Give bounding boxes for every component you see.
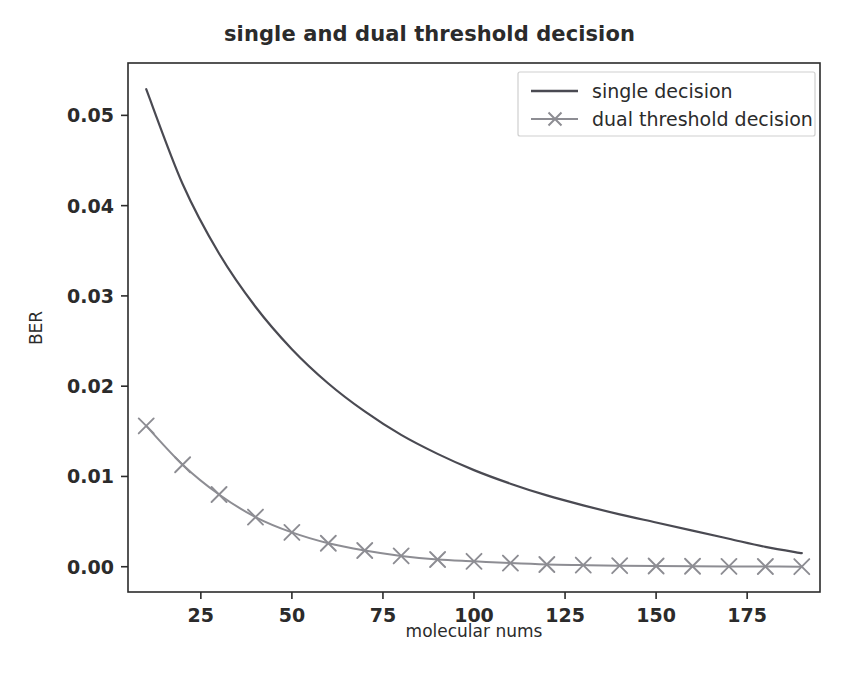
- chart-figure: single and dual threshold decision 25507…: [0, 0, 859, 683]
- y-tick-label: 0.05: [67, 104, 114, 126]
- x-tick-label: 175: [727, 604, 767, 626]
- x-axis-title: molecular nums: [406, 621, 543, 641]
- legend-label-single-decision: single decision: [592, 80, 733, 102]
- y-axis-title: BER: [26, 311, 46, 345]
- plot-background: [128, 63, 820, 592]
- y-axis-ticks: 0.000.010.020.030.040.05: [67, 104, 128, 577]
- x-tick-label: 150: [636, 604, 676, 626]
- legend-label-dual-threshold-decision: dual threshold decision: [592, 108, 813, 130]
- x-tick-label: 75: [370, 604, 396, 626]
- y-tick-label: 0.00: [67, 556, 114, 578]
- y-tick-label: 0.02: [67, 375, 114, 397]
- chart-legend[interactable]: single decision dual threshold decision: [518, 72, 815, 136]
- y-tick-label: 0.03: [67, 285, 114, 307]
- x-tick-label: 125: [545, 604, 585, 626]
- y-tick-label: 0.04: [67, 195, 114, 217]
- plot-canvas: 255075100125150175 0.000.010.020.030.040…: [0, 0, 859, 683]
- x-tick-label: 50: [279, 604, 305, 626]
- x-tick-label: 25: [188, 604, 214, 626]
- y-tick-label: 0.01: [67, 465, 114, 487]
